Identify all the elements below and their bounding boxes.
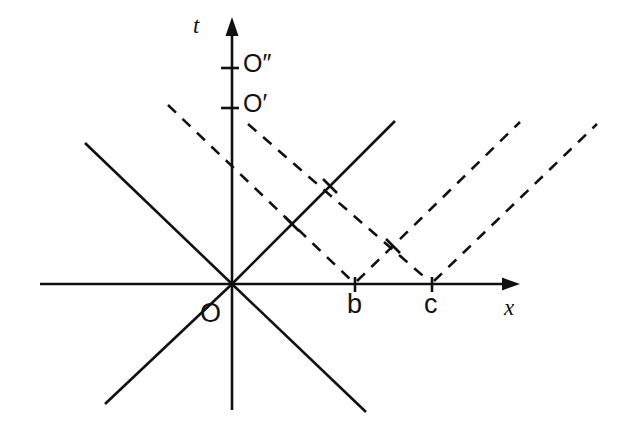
space-axis-arrowhead: [502, 278, 520, 291]
worldline-lower-right: [232, 284, 366, 412]
worldline-upper-left: [85, 143, 232, 284]
event-label-b: b: [347, 291, 362, 318]
lightray-up-from-b: [357, 122, 520, 281]
time-axis-arrowhead: [226, 17, 239, 36]
event-label-o-double-prime: O″: [243, 51, 271, 76]
lightray-up-from-c: [434, 124, 597, 281]
spacetime-diagram: t x O O″ O′ b c: [0, 0, 627, 435]
worldline-upper-right: [232, 121, 395, 284]
event-label-c: c: [424, 291, 438, 318]
lightray-down-to-c: [248, 124, 429, 281]
space-axis-label: x: [504, 296, 514, 319]
origin-label: O: [200, 300, 221, 327]
event-label-o-prime: O′: [243, 91, 267, 116]
time-axis-label: t: [193, 14, 199, 37]
diagram-canvas: [0, 0, 627, 435]
